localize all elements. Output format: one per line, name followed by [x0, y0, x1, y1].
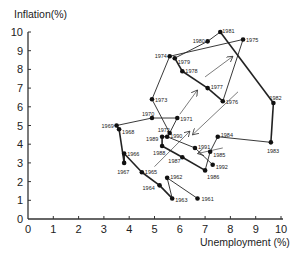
data-point [205, 39, 210, 44]
data-point [140, 170, 145, 175]
y-tick-label: 5 [17, 120, 23, 132]
y-tick-label: 4 [17, 138, 23, 150]
year-label: 1973 [155, 97, 167, 103]
data-point [271, 101, 276, 106]
x-tick-label: 9 [253, 223, 259, 235]
x-tick-label: 1 [50, 223, 56, 235]
y-tick-label: 8 [17, 63, 23, 75]
year-label: 1986 [207, 174, 219, 180]
data-point [157, 183, 162, 188]
trajectory-segment [170, 118, 178, 133]
year-label: 1982 [269, 95, 281, 101]
data-point [172, 56, 177, 61]
year-label: 1984 [221, 132, 233, 138]
data-point [165, 176, 170, 181]
data-point [208, 149, 213, 154]
year-label: 1963 [175, 197, 187, 203]
phillips-curve-chart: 012345678910012345678910 196119621963196… [0, 0, 305, 266]
year-label: 1974 [155, 53, 167, 59]
year-label: 1971 [180, 116, 192, 122]
x-tick-label: 4 [126, 223, 132, 235]
data-point [122, 161, 127, 166]
x-tick-label: 10 [275, 223, 287, 235]
direction-arrow [205, 56, 233, 77]
year-label: 1976 [226, 99, 238, 105]
x-tick-label: 6 [177, 223, 183, 235]
year-label: 1975 [246, 37, 258, 43]
trajectory-segment [208, 32, 221, 41]
y-tick-label: 10 [11, 26, 23, 38]
x-tick-label: 8 [227, 223, 233, 235]
year-labels: 1961196219631964196519661967196819691970… [102, 28, 282, 203]
direction-arrow [180, 90, 198, 114]
trajectory-segment [182, 157, 205, 170]
data-point [180, 155, 185, 160]
data-point [160, 144, 165, 149]
data-point [167, 54, 172, 59]
data-point [210, 162, 215, 167]
year-label: 1989 [146, 136, 158, 142]
year-label: 1977 [211, 84, 223, 90]
year-label: 1978 [185, 68, 197, 74]
year-label: 1968 [122, 129, 134, 135]
trajectory-segment [117, 118, 152, 125]
x-tick-label: 7 [202, 223, 208, 235]
data-point [150, 97, 155, 102]
year-label: 1961 [202, 196, 214, 202]
data-point [215, 134, 220, 139]
x-tick-label: 0 [25, 223, 31, 235]
year-label: 1992 [216, 164, 228, 170]
x-tick-label: 3 [101, 223, 107, 235]
data-points [114, 30, 275, 201]
data-point [122, 151, 127, 156]
data-point [193, 146, 198, 151]
y-tick-label: 3 [17, 157, 23, 169]
data-point [205, 86, 210, 91]
year-label: 1980 [193, 38, 205, 44]
x-tick-label: 2 [76, 223, 82, 235]
data-point [165, 134, 170, 139]
y-tick-label: 6 [17, 101, 23, 113]
year-label: 1985 [213, 152, 225, 158]
year-label: 1988 [153, 150, 165, 156]
data-point [175, 116, 180, 121]
year-label: 1970 [142, 111, 154, 117]
year-label: 1987 [168, 158, 180, 164]
data-point [180, 69, 185, 74]
year-label: 1972 [158, 127, 170, 133]
x-axis-title: Unemployment (%) [200, 236, 290, 248]
year-label: 1966 [127, 151, 139, 157]
year-label: 1990 [170, 133, 182, 139]
year-label: 1969 [102, 123, 114, 129]
year-label: 1981 [222, 28, 234, 34]
trajectory-segment [152, 56, 170, 99]
year-label: 1965 [145, 169, 157, 175]
data-point [195, 196, 200, 201]
year-label: 1991 [198, 144, 210, 150]
data-point [160, 134, 165, 139]
data-point [203, 168, 208, 173]
y-tick-label: 1 [17, 194, 23, 206]
axes: 012345678910012345678910 [11, 26, 287, 235]
year-label: 1967 [117, 169, 129, 175]
trajectory-segment [271, 103, 274, 142]
year-label: 1983 [267, 148, 279, 154]
y-axis-title: Inflation(%) [14, 8, 67, 20]
y-tick-label: 2 [17, 176, 23, 188]
y-tick-label: 9 [17, 45, 23, 57]
data-point [221, 99, 226, 104]
year-label: 1962 [170, 174, 182, 180]
data-point [117, 127, 122, 132]
data-point [170, 196, 175, 201]
data-point [114, 123, 119, 128]
y-tick-label: 7 [17, 82, 23, 94]
y-tick-label: 0 [17, 213, 23, 225]
year-label: 1964 [143, 185, 155, 191]
x-tick-label: 5 [151, 223, 157, 235]
year-label: 1979 [178, 59, 190, 65]
data-point [269, 140, 274, 145]
data-point [241, 37, 246, 42]
